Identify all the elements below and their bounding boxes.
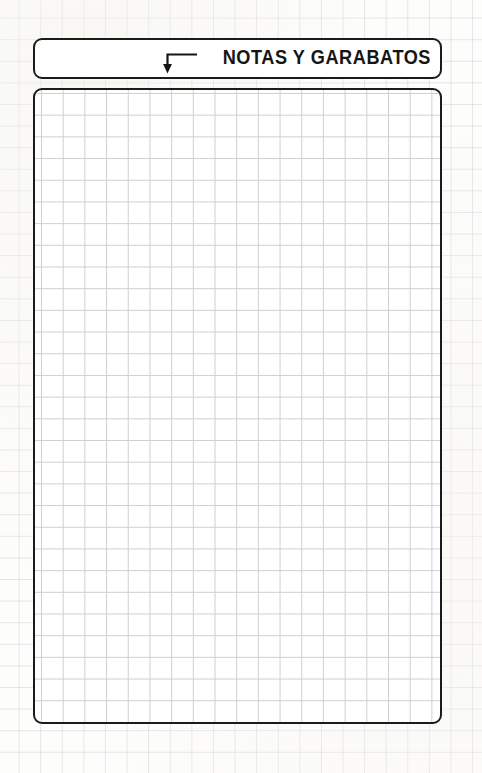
notebook-page: NOTAS Y GARABATOS (0, 0, 482, 773)
page-title: NOTAS Y GARABATOS (223, 48, 431, 69)
title-box: NOTAS Y GARABATOS (33, 38, 442, 79)
notes-box[interactable] (33, 88, 442, 724)
notes-writing-area[interactable] (35, 90, 440, 722)
title-row: NOTAS Y GARABATOS (159, 40, 431, 77)
elbow-arrow-down-icon (159, 48, 199, 76)
